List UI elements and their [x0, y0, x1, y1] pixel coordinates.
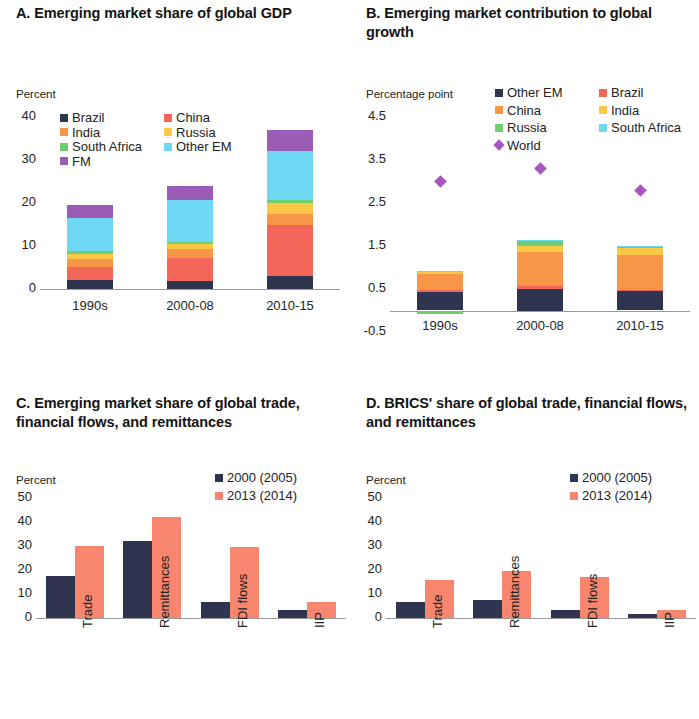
legend-swatch-icon: [570, 474, 578, 482]
panel-b-segment-south-africa: [417, 271, 463, 272]
panel-b-legend-item-brazil: Brazil: [599, 85, 644, 100]
panel-c-ytick: 20: [4, 561, 32, 576]
panel-b-xtick: 2010-15: [595, 318, 685, 333]
panel-a-segment-other-em: [267, 151, 313, 199]
panel-d-xtick: IIP: [662, 612, 677, 628]
panel-d-xtick: FDI flows: [585, 574, 600, 628]
panel-b-segment-russia: [617, 247, 663, 248]
panel-a-xtick: 1990s: [45, 298, 135, 313]
panel-c-xtick: FDI flows: [235, 574, 250, 628]
panel-d-legend-label: 2000 (2005): [582, 470, 652, 485]
panel-b-legend-item-other-em: Other EM: [495, 85, 563, 100]
panel-a-segment-china: [267, 225, 313, 276]
panel-b-xtick: 1990s: [395, 318, 485, 333]
panel-c-bar-trade-series-1: [46, 576, 75, 618]
panel-a-axis-unit: Percent: [16, 88, 56, 100]
panel-a-segment-south-africa: [67, 251, 113, 254]
panel-a-segment-south-africa: [267, 200, 313, 203]
panel-b-segment-brazil: [517, 286, 563, 289]
panel-c-bar-iip-series-1: [278, 610, 307, 618]
panel-a-ytick: 20: [4, 194, 36, 209]
panel-c-ytick: 30: [4, 537, 32, 552]
panel-a-segment-brazil: [267, 276, 313, 289]
panel-d-xtick: Trade: [430, 595, 445, 628]
panel-a-segment-india: [267, 214, 313, 225]
panel-a-ytick: 30: [4, 151, 36, 166]
panel-b-bar-2000-08: [517, 105, 563, 340]
panel-a-segment-fm: [267, 130, 313, 152]
panel-a-title: A. Emerging market share of global GDP: [16, 4, 336, 23]
panel-d-bar-remittances-series-1: [473, 600, 502, 618]
panel-a-segment-india: [167, 249, 213, 258]
panel-a: A. Emerging market share of global GDP P…: [0, 0, 350, 360]
panel-a-segment-russia: [267, 203, 313, 214]
panel-b-title: B. Emerging market contribution to globa…: [366, 4, 696, 42]
panel-c-ytick: 50: [4, 489, 32, 504]
panel-b-legend-label: Other EM: [507, 85, 563, 100]
panel-d-xtick: Remittances: [507, 556, 522, 628]
panel-b-ytick: 1.5: [354, 237, 386, 252]
panel-a-ytick: 40: [4, 108, 36, 123]
panel-a-bar-2010-15: [267, 105, 313, 295]
panel-b-ytick: 2.5: [354, 194, 386, 209]
panel-d-title: D. BRICS' share of global trade, financi…: [366, 394, 696, 432]
panel-d-ytick: 50: [354, 489, 382, 504]
panel-b-axis-unit: Percentage point: [366, 88, 453, 100]
panel-c-title: C. Emerging market share of global trade…: [16, 394, 346, 432]
panel-a-segment-china: [167, 258, 213, 280]
panel-b-segment-other-em: [517, 289, 563, 311]
panel-b-ytick: 0.5: [354, 280, 386, 295]
panel-b-bar-2010-15: [617, 105, 663, 340]
panel-d-ytick: 30: [354, 537, 382, 552]
panel-b-segment-china: [417, 274, 463, 290]
panel-a-segment-china: [67, 267, 113, 280]
panel-a-segment-brazil: [167, 281, 213, 289]
panel-c-xtick: Trade: [80, 595, 95, 628]
panel-c-plot: 01020304050TradeRemittancesFDI flowsIIP: [36, 486, 346, 711]
legend-swatch-icon: [495, 89, 503, 97]
panel-c-ytick: 0: [4, 609, 32, 624]
panel-c-ytick: 40: [4, 513, 32, 528]
panel-c: C. Emerging market share of global trade…: [0, 390, 350, 719]
panel-c-axis-unit: Percent: [16, 474, 56, 486]
panel-b-segment-china: [517, 252, 563, 286]
panel-b-ytick: 3.5: [354, 151, 386, 166]
panel-a-xtick: 2010-15: [245, 298, 335, 313]
panel-a-segment-fm: [167, 186, 213, 200]
panel-a-segment-other-em: [167, 200, 213, 242]
panel-a-plot: 0102030401990s2000-082010-15: [40, 105, 340, 295]
panel-c-bar-fdi-flows-series-1: [201, 602, 230, 618]
panel-c-xtick: IIP: [312, 612, 327, 628]
panel-d-ytick: 10: [354, 585, 382, 600]
panel-d-bar-trade-series-1: [396, 602, 425, 618]
panel-a-ytick: 10: [4, 237, 36, 252]
panel-d-legend-item-2000-2005: 2000 (2005): [570, 470, 652, 485]
panel-b-segment-russia: [517, 241, 563, 246]
panel-b-segment-china: [617, 255, 663, 291]
panel-a-ytick: 0: [4, 280, 36, 295]
panel-b-segment-other-em: [417, 292, 463, 311]
panel-a-bar-2000-08: [167, 105, 213, 295]
panel-b: B. Emerging market contribution to globa…: [350, 0, 699, 360]
panel-b-ytick: 4.5: [354, 108, 386, 123]
panel-a-segment-fm: [67, 205, 113, 218]
panel-d-ytick: 0: [354, 609, 382, 624]
panel-a-segment-russia: [67, 254, 113, 259]
panel-a-segment-south-africa: [167, 242, 213, 244]
panel-a-xtick: 2000-08: [145, 298, 235, 313]
panel-b-legend-label: Brazil: [611, 85, 644, 100]
panel-a-segment-russia: [167, 244, 213, 250]
panel-a-segment-india: [67, 259, 113, 267]
panel-c-ytick: 10: [4, 585, 32, 600]
panel-b-ytick: -0.5: [354, 323, 386, 338]
panel-b-segment-india: [517, 246, 563, 252]
legend-swatch-icon: [215, 474, 223, 482]
panel-b-segment-india: [617, 247, 663, 254]
panel-b-plot: -0.50.51.52.53.54.51990s2000-082010-15: [390, 105, 690, 340]
panel-b-segment-brazil: [417, 290, 463, 291]
panel-b-segment-brazil: [617, 290, 663, 291]
panel-d-axis-unit: Percent: [366, 474, 406, 486]
panel-d-bar-fdi-flows-series-1: [551, 610, 580, 618]
panel-b-bar-1990s: [417, 105, 463, 340]
panel-b-segment-other-em: [617, 291, 663, 310]
